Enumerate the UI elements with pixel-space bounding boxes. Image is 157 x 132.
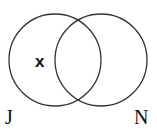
- venn-diagram: x J N: [0, 0, 157, 132]
- set-n-label: N: [134, 106, 148, 128]
- set-j-label: J: [5, 106, 13, 128]
- x-marker: x: [35, 52, 45, 71]
